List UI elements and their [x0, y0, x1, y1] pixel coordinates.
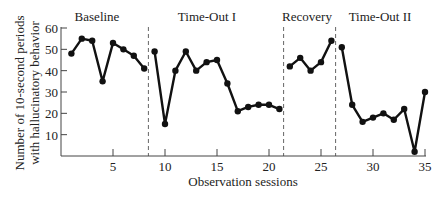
- data-point: [287, 63, 293, 69]
- data-point: [307, 67, 313, 73]
- data-point: [131, 53, 137, 59]
- series-recovery: [287, 38, 335, 74]
- series-line: [342, 47, 425, 152]
- chart-canvas: BaselineTime-Out IRecoveryTime-Out II 10…: [0, 0, 445, 197]
- data-point: [120, 46, 126, 52]
- x-tick-label: 20: [263, 159, 276, 174]
- data-point: [391, 117, 397, 123]
- data-point: [235, 108, 241, 114]
- x-tick-label: 25: [315, 159, 328, 174]
- data-point: [349, 102, 355, 108]
- x-tick-label: 30: [367, 159, 380, 174]
- phase-labels: BaselineTime-Out IRecoveryTime-Out II: [75, 9, 412, 24]
- y-axis-label-line-2: with hallucinatory behavior: [27, 20, 42, 164]
- data-point: [411, 149, 417, 155]
- series-baseline: [68, 35, 147, 84]
- data-point: [110, 40, 116, 46]
- data-point: [141, 65, 147, 71]
- data-point: [297, 55, 303, 61]
- phase-dividers: [148, 27, 335, 156]
- x-tick-label: 10: [159, 159, 172, 174]
- y-tick-label: 60: [45, 21, 58, 36]
- x-tick-label: 15: [211, 159, 224, 174]
- data-point: [276, 106, 282, 112]
- data-point: [318, 59, 324, 65]
- y-tick-label: 20: [45, 106, 58, 121]
- data-point: [99, 78, 105, 84]
- phase-label: Recovery: [282, 9, 332, 24]
- data-point: [162, 121, 168, 127]
- data-point: [172, 67, 178, 73]
- data-point: [203, 59, 209, 65]
- y-tick-label: 10: [45, 128, 58, 143]
- axes: [61, 27, 426, 156]
- series-line: [290, 41, 332, 71]
- data-point: [380, 110, 386, 116]
- y-axis-label-line-1: Number of 10-second periods: [12, 16, 27, 171]
- x-tick-label: 5: [110, 159, 117, 174]
- data-point: [266, 102, 272, 108]
- phase-label: Time-Out I: [178, 9, 236, 24]
- y-tick-label: 40: [45, 64, 58, 79]
- phase-label: Baseline: [75, 9, 120, 24]
- y-tick-label: 30: [45, 85, 58, 100]
- data-point: [79, 35, 85, 41]
- data-point: [89, 38, 95, 44]
- data-point: [339, 44, 345, 50]
- data-point: [214, 57, 220, 63]
- data-point: [68, 50, 74, 56]
- y-tick-label: 50: [45, 42, 58, 57]
- data-point: [224, 80, 230, 86]
- y-ticks: 102030405060: [45, 21, 67, 143]
- series-time-out-i: [151, 48, 282, 127]
- series-line: [71, 39, 144, 82]
- data-point: [328, 38, 334, 44]
- series-time-out-ii: [339, 44, 429, 155]
- x-ticks: 5101520253035: [110, 149, 432, 174]
- data-point: [401, 106, 407, 112]
- data-point: [370, 114, 376, 120]
- phase-label: Time-Out II: [349, 9, 412, 24]
- data-point: [359, 119, 365, 125]
- data-series: [68, 35, 428, 154]
- data-point: [183, 48, 189, 54]
- x-tick-label: 35: [419, 159, 432, 174]
- data-point: [151, 48, 157, 54]
- x-axis-label: Observation sessions: [188, 174, 297, 189]
- data-point: [193, 67, 199, 73]
- hallucination-chart: BaselineTime-Out IRecoveryTime-Out II 10…: [0, 0, 445, 197]
- data-point: [245, 104, 251, 110]
- data-point: [255, 102, 261, 108]
- data-point: [422, 89, 428, 95]
- y-axis-label: Number of 10-second periods with halluci…: [12, 16, 42, 171]
